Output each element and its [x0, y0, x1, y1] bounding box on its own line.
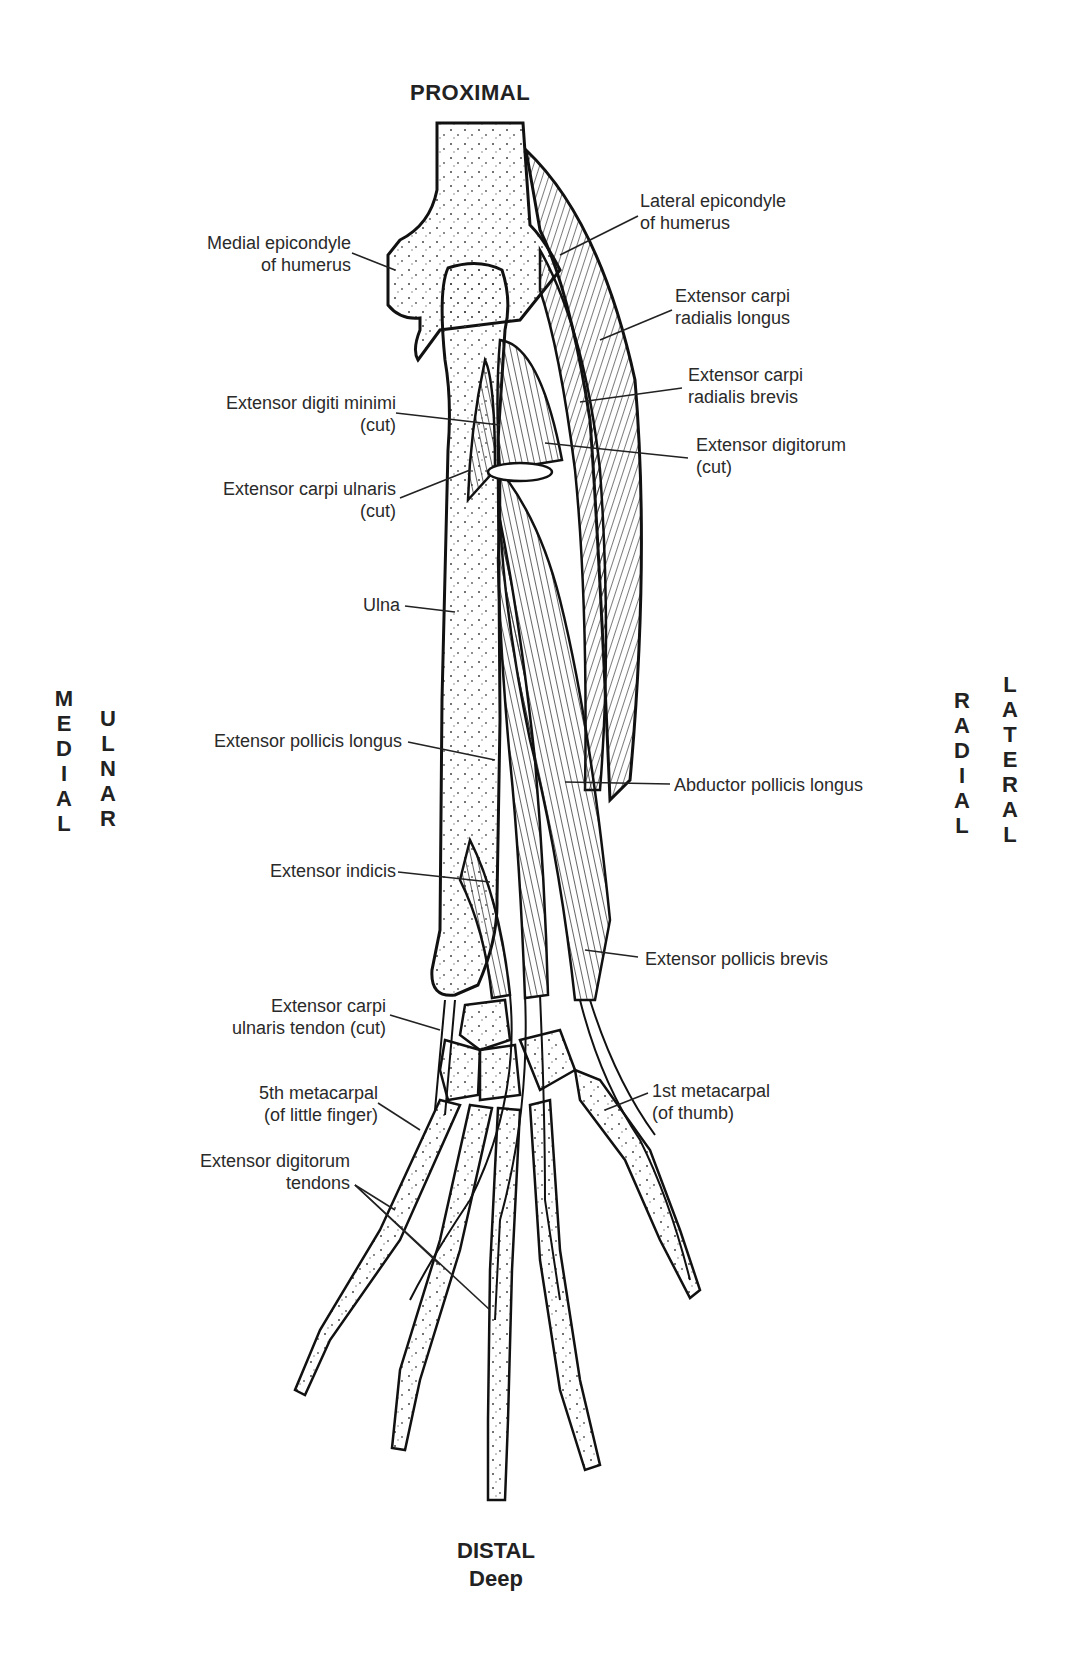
label-ecu-tendon: Extensor carpiulnaris tendon (cut): [232, 995, 386, 1039]
forearm-illustration: [0, 0, 1086, 1658]
label-extensor-indicis: Extensor indicis: [270, 860, 396, 882]
distal-label: DISTAL Deep: [436, 1537, 556, 1593]
medial-label: MEDIAL: [52, 686, 76, 836]
label-medial-epicondyle: Medial epicondyleof humerus: [207, 232, 351, 276]
label-lateral-epicondyle: Lateral epicondyleof humerus: [640, 190, 786, 234]
label-ecrl: Extensor carpiradialis longus: [675, 285, 790, 329]
deep-label: Deep: [436, 1565, 556, 1593]
label-5th-metacarpal: 5th metacarpal(of little finger): [259, 1082, 378, 1126]
label-ecrb: Extensor carpiradialis brevis: [688, 364, 803, 408]
label-extensor-digitorum: Extensor digitorum(cut): [696, 434, 846, 478]
label-ulna: Ulna: [363, 594, 400, 616]
lateral-label: LATERAL: [998, 672, 1022, 847]
label-abductor-pollicis-longus: Abductor pollicis longus: [674, 774, 863, 796]
proximal-label: PROXIMAL: [410, 80, 530, 106]
label-1st-metacarpal: 1st metacarpal(of thumb): [652, 1080, 770, 1124]
label-extensor-digiti-minimi: Extensor digiti minimi(cut): [226, 392, 396, 436]
ulnar-label: ULNAR: [96, 706, 120, 831]
label-extensor-pollicis-brevis: Extensor pollicis brevis: [645, 948, 828, 970]
radial-label: RADIAL: [950, 688, 974, 838]
label-extensor-pollicis-longus: Extensor pollicis longus: [214, 730, 402, 752]
label-extensor-carpi-ulnaris: Extensor carpi ulnaris(cut): [223, 478, 396, 522]
label-extensor-digitorum-tendons: Extensor digitorumtendons: [200, 1150, 350, 1194]
